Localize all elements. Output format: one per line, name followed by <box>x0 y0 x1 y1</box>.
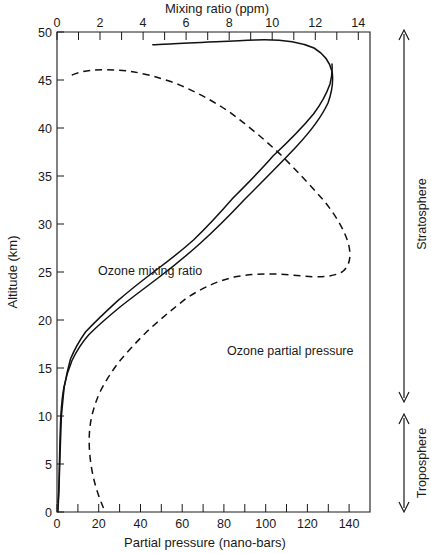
bottom-tick-140: 140 <box>339 517 360 531</box>
bottom-tick-120: 120 <box>297 517 318 531</box>
top-axis-title: Mixing ratio (ppm) <box>165 1 269 16</box>
y-tick-25: 25 <box>38 266 52 280</box>
y-tick-50: 50 <box>38 26 52 40</box>
bottom-tick-40: 40 <box>134 517 148 531</box>
stratosphere-label: Stratosphere <box>415 178 429 250</box>
y-tick-30: 30 <box>38 218 52 232</box>
bottom-tick-20: 20 <box>92 517 106 531</box>
bottom-axis-ticklabels: 0 20 40 60 80 100 120 140 <box>54 517 360 531</box>
bottom-axis-ticks <box>57 504 349 512</box>
ozone-vertical-profile-chart: 0 2 4 6 8 10 12 14 Mixing ratio (ppm) 0 … <box>0 0 431 553</box>
troposphere-label: Troposphere <box>415 428 429 498</box>
bottom-axis-title: Partial pressure (nano-bars) <box>124 535 286 550</box>
bottom-tick-60: 60 <box>175 517 189 531</box>
y-tick-5: 5 <box>45 458 52 472</box>
top-axis-ticks <box>57 32 358 40</box>
y-axis-title: Altitude (km) <box>5 236 20 309</box>
y-axis-ticklabels: 50 45 40 35 30 25 20 15 10 5 0 <box>38 26 52 520</box>
series-ozone-mixing-ratio <box>58 64 332 502</box>
chart-canvas: 0 2 4 6 8 10 12 14 Mixing ratio (ppm) 0 … <box>0 0 431 553</box>
top-tick-6: 6 <box>183 16 190 30</box>
bottom-tick-80: 80 <box>217 517 231 531</box>
series-ozone-partial-pressure <box>70 70 350 508</box>
top-axis-ticklabels: 0 2 4 6 8 10 12 14 <box>54 16 366 30</box>
troposphere-arrow <box>399 414 409 512</box>
top-tick-12: 12 <box>308 16 322 30</box>
y-tick-40: 40 <box>38 122 52 136</box>
stratosphere-arrow <box>399 30 409 402</box>
y-tick-10: 10 <box>38 410 52 424</box>
y-tick-0: 0 <box>45 506 52 520</box>
bottom-tick-0: 0 <box>54 517 61 531</box>
top-tick-0: 0 <box>54 16 61 30</box>
top-tick-2: 2 <box>97 16 104 30</box>
annotation-ozone-mixing-ratio: Ozone mixing ratio <box>98 264 202 278</box>
top-tick-8: 8 <box>226 16 233 30</box>
annotation-ozone-partial-pressure: Ozone partial pressure <box>227 344 354 358</box>
y-tick-15: 15 <box>38 362 52 376</box>
y-tick-35: 35 <box>38 170 52 184</box>
y-tick-45: 45 <box>38 74 52 88</box>
top-tick-14: 14 <box>351 16 365 30</box>
top-tick-10: 10 <box>265 16 279 30</box>
bottom-tick-100: 100 <box>255 517 276 531</box>
top-tick-4: 4 <box>140 16 147 30</box>
y-tick-20: 20 <box>38 314 52 328</box>
